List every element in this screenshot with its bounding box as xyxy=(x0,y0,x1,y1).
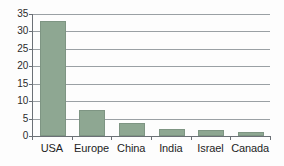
bar-slot xyxy=(112,14,152,136)
x-tick-mark xyxy=(191,136,192,140)
y-axis-tick-label: 25 xyxy=(17,44,28,54)
y-axis-tick-label: 10 xyxy=(17,96,28,106)
bar-slot xyxy=(73,14,113,136)
x-tick-mark xyxy=(111,136,112,140)
x-tick-mark xyxy=(72,136,73,140)
x-tick-mark xyxy=(230,136,231,140)
y-axis-tick-label: 15 xyxy=(17,79,28,89)
x-axis-category-label: China xyxy=(117,143,145,154)
bar-slot xyxy=(231,14,271,136)
bar xyxy=(79,110,105,136)
bar xyxy=(159,129,185,136)
y-axis-tick-label: 5 xyxy=(23,114,28,124)
bar xyxy=(238,132,264,136)
bar-slot xyxy=(152,14,192,136)
plot-area: 05101520253035 xyxy=(32,14,270,136)
x-axis-category-label: Israel xyxy=(197,143,223,154)
bar-chart: 05101520253035 USAEuropeChinaIndiaIsrael… xyxy=(0,0,284,166)
y-axis-tick-label: 20 xyxy=(17,61,28,71)
x-tick-mark xyxy=(32,136,33,140)
x-axis-category-label: India xyxy=(159,143,182,154)
bar xyxy=(40,21,66,136)
bar-slot xyxy=(192,14,232,136)
bars xyxy=(33,14,270,136)
y-axis-tick-label: 35 xyxy=(17,9,28,19)
bar xyxy=(198,130,224,136)
y-axis-tick-label: 30 xyxy=(17,26,28,36)
y-axis-tick-label: 0 xyxy=(23,131,28,141)
x-tick-mark xyxy=(270,136,271,140)
bar xyxy=(119,123,145,136)
x-axis-category-label: Europe xyxy=(74,143,109,154)
x-axis-category-label: USA xyxy=(41,143,63,154)
bar-slot xyxy=(33,14,73,136)
x-tick-mark xyxy=(151,136,152,140)
x-axis-category-label: Canada xyxy=(231,143,269,154)
